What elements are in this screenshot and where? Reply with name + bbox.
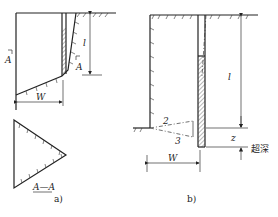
caption-a: a) [54, 194, 63, 204]
soil-hatching [26, 13, 108, 95]
figure-a-section: A—A a) [14, 120, 66, 204]
line-3 [150, 128, 193, 137]
line-2-label: 2 [162, 116, 169, 126]
figure-b: 2 3 l z 超深 W b) [133, 15, 269, 204]
line-3-label: 3 [175, 136, 181, 146]
section-label: A—A [32, 182, 55, 192]
soil-hatching-b [134, 15, 248, 132]
section-marker-left [8, 50, 12, 54]
section-triangle [14, 120, 66, 188]
section-marker-right [76, 56, 80, 60]
depth-label-b: l [228, 72, 231, 82]
width-label: W [36, 92, 46, 102]
depth-label: l [83, 38, 86, 48]
width-label-b: W [168, 153, 178, 163]
pile-wall-hatch [198, 56, 205, 147]
excavation-slope [16, 13, 76, 95]
caption-b: b) [187, 194, 196, 204]
section-hatching [19, 124, 62, 183]
figure-a-elevation: A A l W [4, 13, 116, 110]
section-marker-left-label: A [4, 55, 12, 65]
wall-hatch [62, 28, 66, 74]
overdepth-symbol: z [230, 133, 236, 143]
overdepth-label: 超深 [251, 143, 269, 154]
diagram-canvas: A A l W A—A a) [0, 0, 278, 217]
section-marker-right-label: A [75, 62, 83, 72]
line-2 [150, 121, 193, 128]
